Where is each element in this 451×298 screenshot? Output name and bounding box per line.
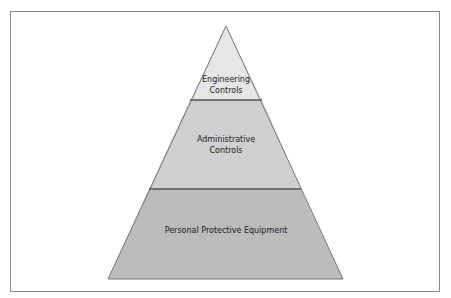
label-line: Controls bbox=[197, 145, 255, 156]
label-line: Personal Protective Equipment bbox=[165, 225, 288, 236]
label-line: Engineering bbox=[202, 74, 250, 85]
label-ppe: Personal Protective Equipment bbox=[165, 225, 288, 236]
label-line: Administrative bbox=[197, 134, 255, 145]
label-administrative-controls: Administrative Controls bbox=[197, 134, 255, 156]
label-engineering-controls: Engineering Controls bbox=[202, 74, 250, 96]
label-line: Controls bbox=[202, 85, 250, 96]
